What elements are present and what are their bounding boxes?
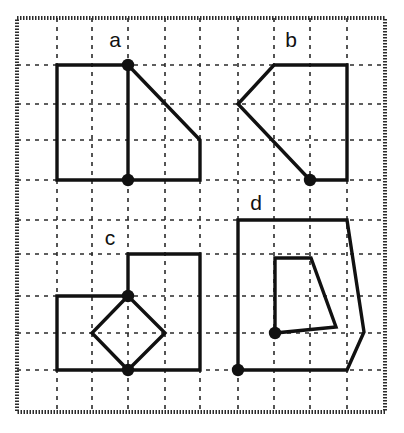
panel-d-vertex-dot-1 [269, 327, 281, 339]
label-a: a [109, 28, 121, 51]
label-c: c [105, 226, 116, 249]
panel-a-vertex-dot-1 [122, 174, 134, 186]
panel-c-vertex-dot-1 [122, 364, 134, 376]
panel-b-vertex-dot-0 [304, 174, 316, 186]
panel-a [57, 59, 200, 186]
label-d: d [250, 191, 262, 214]
panel-d-outline [238, 220, 364, 370]
panel-b-outline [238, 65, 347, 180]
figure-container: abcd [0, 0, 404, 433]
polygon-figure: abcd [0, 0, 404, 433]
panel-c-vertex-dot-0 [122, 290, 134, 302]
panel-d-vertex-dot-0 [232, 364, 244, 376]
panel-a-vertex-dot-0 [122, 59, 134, 71]
label-b: b [285, 28, 297, 51]
panel-b [238, 65, 347, 186]
panel-d [232, 220, 364, 376]
